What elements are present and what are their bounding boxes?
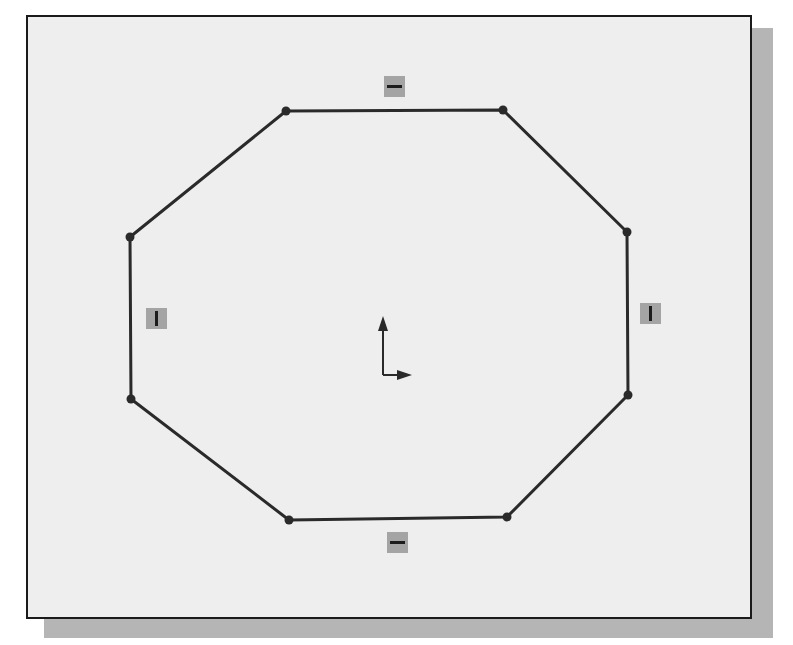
constraint-vertical-right-icon[interactable] xyxy=(640,303,661,324)
constraint-horizontal-top-icon[interactable] xyxy=(384,76,405,97)
origin-axes-icon xyxy=(378,316,412,380)
sketch-points xyxy=(126,106,633,525)
constraint-horizontal-bottom-icon[interactable] xyxy=(387,532,408,553)
sketch-point-left-bottom[interactable] xyxy=(127,395,136,404)
vertical-relation-icon xyxy=(649,306,652,321)
sketch-point-top-left[interactable] xyxy=(282,107,291,116)
sketch-point-bottom-right[interactable] xyxy=(503,513,512,522)
sketch-point-right-top[interactable] xyxy=(623,228,632,237)
horizontal-relation-icon xyxy=(387,85,402,88)
sketch-point-bottom-left[interactable] xyxy=(285,516,294,525)
constraint-vertical-left-icon[interactable] xyxy=(146,308,167,329)
vertical-relation-icon xyxy=(155,311,158,326)
sketch-point-left-top[interactable] xyxy=(126,233,135,242)
sketch-point-top-right[interactable] xyxy=(499,106,508,115)
horizontal-relation-icon xyxy=(390,541,405,544)
sketch-point-right-bottom[interactable] xyxy=(624,391,633,400)
octagon-sketch[interactable] xyxy=(130,110,628,520)
